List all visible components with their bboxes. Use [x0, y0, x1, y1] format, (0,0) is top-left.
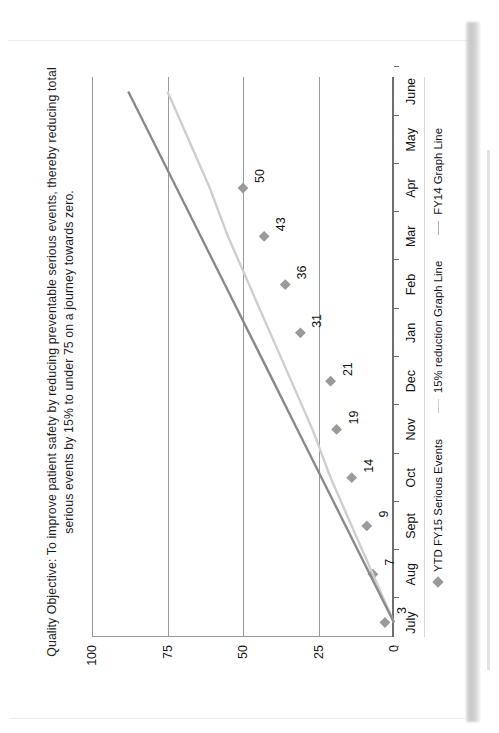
- x-tick: [394, 259, 399, 260]
- x-tick-label: Apr: [404, 178, 418, 197]
- legend-dash-icon: [438, 221, 439, 235]
- data-point-label: 9: [377, 510, 391, 517]
- series-svg-layer: [92, 77, 394, 637]
- data-point-label: 21: [341, 362, 355, 376]
- legend-separator: [424, 77, 425, 637]
- x-tick-label: June: [404, 78, 418, 105]
- chart-title: Quality Objective: To improve patient sa…: [44, 47, 78, 677]
- series-line: [168, 91, 395, 622]
- data-point-label: 3: [395, 607, 409, 614]
- legend-label: FY14 Graph Line: [432, 128, 444, 215]
- data-point-marker: [331, 424, 342, 435]
- data-point-label: 31: [310, 314, 324, 328]
- data-point-marker: [380, 617, 391, 628]
- chart-figure: Quality Objective: To improve patient sa…: [0, 0, 499, 733]
- data-point-label: 43: [274, 217, 288, 231]
- legend-diamond-icon: [432, 576, 443, 587]
- data-point-label: 14: [362, 459, 376, 473]
- x-tick-label: Mar: [404, 226, 418, 248]
- x-tick-label: Oct: [404, 468, 418, 487]
- x-tick: [394, 646, 399, 647]
- x-tick: [394, 549, 399, 550]
- legend-item[interactable]: 15% reduction Graph Line: [432, 261, 444, 413]
- data-point-marker: [259, 231, 270, 242]
- data-point-label: 19: [347, 410, 361, 424]
- y-tick-label: 25: [312, 645, 326, 659]
- x-tick-label: July: [404, 611, 418, 633]
- chart-legend: YTD FY15 Serious Events15% reduction Gra…: [432, 77, 444, 637]
- x-tick-label: Sept: [404, 513, 418, 539]
- x-tick-label: Jan: [404, 323, 418, 343]
- data-point-marker: [346, 472, 357, 483]
- legend-dash-icon: [438, 399, 439, 413]
- legend-item[interactable]: YTD FY15 Serious Events: [432, 439, 444, 586]
- legend-label: 15% reduction Graph Line: [432, 261, 444, 393]
- x-tick: [394, 163, 399, 164]
- data-point-label: 50: [253, 169, 267, 183]
- x-tick-label: Aug: [404, 563, 418, 585]
- x-tick: [394, 66, 399, 67]
- x-tick: [394, 308, 399, 309]
- rotated-chart-container: Quality Objective: To improve patient sa…: [0, 0, 499, 733]
- data-point-label: 36: [295, 266, 309, 280]
- x-tick: [394, 404, 399, 405]
- x-tick: [394, 211, 399, 212]
- legend-label: YTD FY15 Serious Events: [432, 439, 444, 572]
- y-tick-label: 75: [161, 645, 175, 659]
- x-tick-label: Nov: [404, 418, 418, 440]
- x-tick-label: Dec: [404, 370, 418, 392]
- x-tick: [394, 501, 399, 502]
- data-point-marker: [295, 327, 306, 338]
- data-point-marker: [325, 376, 336, 387]
- x-tick-label: May: [404, 128, 418, 152]
- y-tick-label: 50: [236, 645, 250, 659]
- data-point-marker: [361, 521, 372, 532]
- legend-item[interactable]: FY14 Graph Line: [432, 128, 444, 235]
- x-tick: [394, 453, 399, 454]
- plot-area: 0255075100 JulyAugSeptOctNovDecJanFebMar…: [92, 77, 394, 637]
- x-tick: [394, 115, 399, 116]
- y-tick-label: 100: [85, 645, 99, 666]
- x-tick: [394, 356, 399, 357]
- data-point-marker: [238, 183, 249, 194]
- data-point-marker: [280, 279, 291, 290]
- data-point-label: 7: [383, 559, 397, 566]
- x-tick: [394, 597, 399, 598]
- scanned-page: Quality Objective: To improve patient sa…: [0, 0, 499, 733]
- x-tick-label: Feb: [404, 274, 418, 296]
- gridline: [394, 77, 395, 637]
